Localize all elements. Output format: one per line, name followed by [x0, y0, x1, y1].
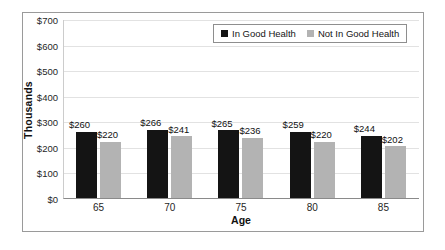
bar-group: $259$220	[278, 20, 349, 198]
bar-groups: $260$220$266$241$265$236$259$220$244$202	[64, 20, 419, 198]
y-axis-tick-label: $100	[37, 168, 58, 179]
y-axis-tick-label: $400	[37, 91, 58, 102]
bar[interactable]	[171, 136, 192, 198]
bar[interactable]	[242, 138, 263, 198]
plot-area: $260$220$266$241$265$236$259$220$244$202	[63, 20, 419, 199]
bar-value-label: $220	[97, 130, 118, 140]
bar[interactable]	[76, 132, 97, 198]
bar-value-label: $259	[283, 120, 304, 130]
y-axis-tick-labels: $0$100$200$300$400$500$600$700	[0, 20, 63, 199]
bar-value-label: $266	[140, 118, 161, 128]
x-axis-title: Age	[231, 214, 251, 226]
bar[interactable]	[100, 142, 121, 198]
bar-value-label: $236	[239, 126, 260, 136]
x-axis-tick-label: 85	[378, 202, 389, 213]
legend-item-in-good-health[interactable]: In Good Health	[221, 28, 296, 39]
bar-value-label: $260	[69, 120, 90, 130]
bar[interactable]	[147, 130, 168, 198]
y-axis-tick-label: $0	[47, 194, 58, 205]
bar[interactable]	[290, 132, 311, 198]
y-axis-tick-label: $300	[37, 117, 58, 128]
x-axis-tick-label: 70	[164, 202, 175, 213]
bar[interactable]	[218, 130, 239, 198]
chart-root: Thousands $0$100$200$300$400$500$600$700…	[0, 0, 445, 250]
bar-group: $244$202	[349, 20, 420, 198]
bar[interactable]	[361, 136, 382, 198]
bar-value-label: $265	[211, 119, 232, 129]
bar-value-label: $202	[382, 135, 403, 145]
bar-group: $260$220	[64, 20, 135, 198]
bar-group: $266$241	[135, 20, 206, 198]
black-square-icon	[221, 30, 228, 37]
y-axis-tick-label: $600	[37, 40, 58, 51]
bar[interactable]	[385, 146, 406, 198]
legend-label: Not In Good Health	[318, 28, 399, 39]
x-axis-tick-label: 65	[93, 202, 104, 213]
bar[interactable]	[314, 142, 335, 198]
y-axis-tick-label: $500	[37, 66, 58, 77]
y-axis-tick-label: $200	[37, 142, 58, 153]
bar-group: $265$236	[206, 20, 277, 198]
y-axis-tick-label: $700	[37, 15, 58, 26]
x-axis-tick-label: 75	[235, 202, 246, 213]
gray-square-icon	[307, 30, 314, 37]
x-axis-tick-label: 80	[307, 202, 318, 213]
legend-item-not-in-good-health[interactable]: Not In Good Health	[307, 28, 399, 39]
bar-value-label: $244	[354, 124, 375, 134]
legend-label: In Good Health	[232, 28, 296, 39]
chart-legend: In Good Health Not In Good Health	[213, 24, 407, 43]
bar-value-label: $241	[168, 125, 189, 135]
bar-value-label: $220	[311, 130, 332, 140]
